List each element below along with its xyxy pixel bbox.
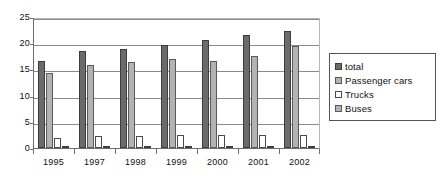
bar-group — [198, 19, 239, 148]
x-tick-label: 2002 — [279, 157, 320, 168]
bar-trucks-2002 — [300, 135, 307, 148]
x-tick-mark — [279, 149, 280, 154]
bar-trucks-2001 — [259, 135, 266, 148]
bar-group — [239, 19, 280, 148]
bar-group — [116, 19, 157, 148]
x-tick-mark — [33, 149, 34, 154]
legend-swatch-icon — [335, 77, 342, 84]
y-tick-label: 5 — [2, 118, 30, 127]
bar-buses-1998 — [144, 146, 151, 148]
x-axis: 1995199719981999200020012002 — [33, 157, 320, 173]
x-tick-label: 2000 — [197, 157, 238, 168]
x-tick-mark — [197, 149, 198, 154]
bar-trucks-2000 — [218, 135, 225, 148]
bar-total-2002 — [284, 31, 291, 148]
legend-item-label: Passenger cars — [345, 75, 412, 86]
y-tick-label: 20 — [2, 39, 30, 48]
x-tick-label: 2001 — [238, 157, 279, 168]
bar-total-2001 — [243, 35, 250, 148]
plot-area — [33, 18, 320, 149]
y-tick-label: 0 — [2, 144, 30, 153]
y-tick-label: 25 — [2, 13, 30, 22]
bar-passenger-cars-1998 — [128, 62, 135, 148]
bar-buses-2002 — [308, 146, 315, 148]
bar-total-1997 — [79, 51, 86, 148]
bar-trucks-1998 — [136, 136, 143, 148]
legend-item-label: total — [345, 61, 363, 72]
x-tick-label: 1999 — [156, 157, 197, 168]
bar-group — [280, 19, 321, 148]
chart-legend: totalPassenger carsTrucksBuses — [329, 53, 436, 121]
legend-item[interactable]: Passenger cars — [335, 73, 431, 87]
x-tick-mark — [319, 149, 320, 154]
x-tick-mark — [115, 149, 116, 154]
bar-buses-1997 — [103, 146, 110, 148]
legend-item-label: Buses — [345, 103, 372, 114]
bar-passenger-cars-1997 — [87, 65, 94, 148]
legend-swatch-icon — [335, 105, 342, 112]
y-tick-label: 15 — [2, 65, 30, 74]
x-tick-label: 1995 — [33, 157, 74, 168]
bar-group — [75, 19, 116, 148]
bar-buses-2000 — [226, 146, 233, 148]
bar-passenger-cars-1999 — [169, 59, 176, 148]
x-axis-ticks — [33, 149, 320, 155]
bar-buses-1995 — [62, 146, 69, 148]
bar-passenger-cars-2002 — [292, 46, 299, 148]
bar-trucks-1995 — [54, 138, 61, 148]
x-tick-mark — [238, 149, 239, 154]
bar-total-1995 — [38, 61, 45, 148]
bar-passenger-cars-2001 — [251, 56, 258, 148]
bar-passenger-cars-1995 — [46, 73, 53, 148]
y-tick-label: 10 — [2, 92, 30, 101]
legend-item[interactable]: Trucks — [335, 87, 431, 101]
bar-groups — [34, 19, 319, 148]
x-tick-label: 1997 — [74, 157, 115, 168]
bar-trucks-1997 — [95, 136, 102, 148]
legend-item[interactable]: Buses — [335, 101, 431, 115]
y-axis: 0510152025 — [0, 10, 30, 160]
bar-buses-1999 — [185, 146, 192, 148]
legend-item-label: Trucks — [345, 89, 374, 100]
bar-group — [157, 19, 198, 148]
bar-passenger-cars-2000 — [210, 61, 217, 149]
legend-swatch-icon — [335, 91, 342, 98]
bar-group — [34, 19, 75, 148]
bar-total-2000 — [202, 40, 209, 148]
legend-item[interactable]: total — [335, 59, 431, 73]
bar-trucks-1999 — [177, 135, 184, 148]
bar-total-1999 — [161, 45, 168, 148]
legend-swatch-icon — [335, 63, 342, 70]
bar-total-1998 — [120, 49, 127, 148]
bar-buses-2001 — [267, 146, 274, 148]
x-tick-mark — [156, 149, 157, 154]
x-tick-label: 1998 — [115, 157, 156, 168]
bar-chart: 0510152025 1995199719981999200020012002 … — [0, 0, 444, 189]
x-tick-mark — [74, 149, 75, 154]
